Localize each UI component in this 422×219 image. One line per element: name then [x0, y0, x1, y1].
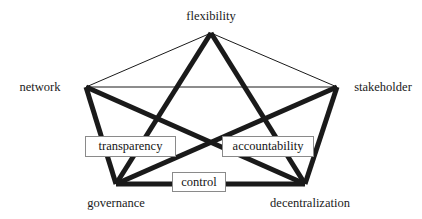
node-label-governance: governance [87, 197, 145, 210]
node-label-network: network [20, 81, 61, 94]
node-label-decentralization: decentralization [270, 197, 350, 210]
edge-label-transparency: transparency [85, 136, 176, 157]
node-label-stakeholder: stakeholder [354, 81, 412, 94]
edge-label-accountability: accountability [222, 136, 314, 157]
node-label-flexibility: flexibility [186, 10, 235, 23]
edge-label-control: control [172, 172, 226, 192]
diagram-canvas: flexibility network stakeholder governan… [0, 0, 422, 219]
